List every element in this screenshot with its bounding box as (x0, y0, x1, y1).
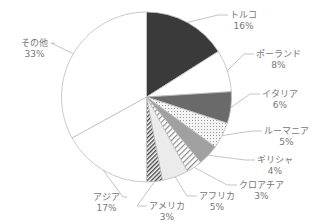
slice-label-name: クロアチア (239, 180, 284, 191)
slice-label: アジア17% (93, 192, 120, 214)
leader-line (51, 43, 73, 54)
slice-label-name: ルーマニア (264, 126, 309, 137)
slice-label: アフリカ5% (199, 191, 235, 213)
slice-label-name: アジア (93, 192, 120, 203)
slice-label-percent: 5% (199, 202, 235, 213)
slice-label-name: アフリカ (199, 191, 235, 202)
slice-label: その他33% (21, 38, 48, 60)
leader-line (187, 15, 228, 23)
slice-label-percent: 8% (256, 60, 301, 71)
slice-label: クロアチア3% (239, 180, 284, 202)
slice-label-name: ポーランド (256, 49, 301, 60)
slice-label: ポーランド8% (256, 49, 301, 71)
slice-label: ルーマニア5% (264, 126, 309, 148)
slice-label: ギリシャ4% (257, 155, 293, 177)
leader-line (175, 177, 197, 196)
slice-label-percent: 3% (239, 191, 284, 202)
pie-slices (61, 12, 231, 182)
leader-line (208, 155, 255, 160)
slice-label-percent: 4% (257, 166, 293, 177)
slice-label-name: その他 (21, 38, 48, 49)
leader-line (227, 54, 254, 71)
slice-label-percent: 17% (93, 203, 120, 214)
slice-label-percent: 6% (262, 100, 298, 111)
leader-line (222, 131, 262, 136)
slice-label-percent: 3% (149, 212, 185, 223)
slice-label: イタリア6% (262, 89, 298, 111)
slice-label-name: ギリシャ (257, 155, 293, 166)
slice-label: アメリカ3% (149, 201, 185, 223)
slice-label-percent: 33% (21, 49, 48, 60)
leader-line (231, 94, 260, 108)
slice-label-name: アメリカ (149, 201, 185, 212)
slice-label: トルコ16% (230, 10, 257, 32)
slice-label-percent: 16% (230, 21, 257, 32)
slice-label-name: イタリア (262, 89, 298, 100)
slice-label-name: トルコ (230, 10, 257, 21)
slice-label-percent: 5% (264, 137, 309, 148)
leader-line (194, 167, 237, 185)
